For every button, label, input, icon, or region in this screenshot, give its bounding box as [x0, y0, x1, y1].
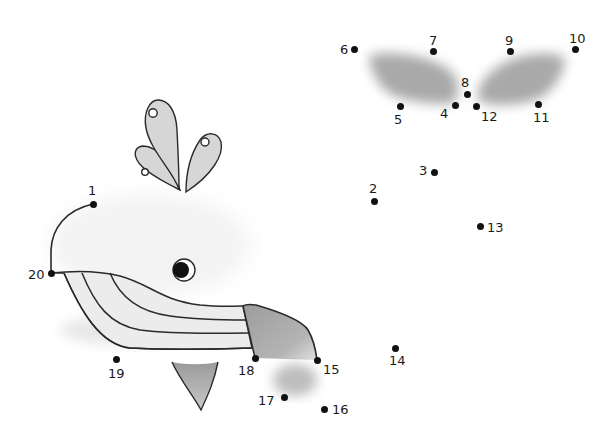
- dot-label-8: 8: [461, 76, 469, 89]
- dot-5[interactable]: [397, 103, 404, 110]
- dot-18[interactable]: [252, 355, 259, 362]
- dot-label-4: 4: [440, 107, 448, 120]
- dot-11[interactable]: [535, 101, 542, 108]
- dot-12[interactable]: [473, 103, 480, 110]
- dot-14[interactable]: [392, 345, 399, 352]
- dot-label-11: 11: [533, 111, 550, 124]
- dot-label-19: 19: [108, 367, 125, 380]
- dot-19[interactable]: [113, 356, 120, 363]
- dot-label-7: 7: [429, 34, 437, 47]
- dot-20[interactable]: [48, 270, 55, 277]
- water-spout: [135, 100, 221, 192]
- dot-label-9: 9: [505, 34, 513, 47]
- dot-9[interactable]: [507, 48, 514, 55]
- dot-label-2: 2: [369, 182, 377, 195]
- whale-drawing: [0, 0, 611, 433]
- dot-label-13: 13: [487, 221, 504, 234]
- dot-label-5: 5: [394, 113, 402, 126]
- dot-label-1: 1: [88, 184, 96, 197]
- dot-10[interactable]: [572, 46, 579, 53]
- dot-label-3: 3: [419, 164, 427, 177]
- dot-2[interactable]: [371, 198, 378, 205]
- dot-label-15: 15: [323, 363, 340, 376]
- dot-label-17: 17: [258, 394, 275, 407]
- dot-label-18: 18: [238, 364, 255, 377]
- dot-16[interactable]: [321, 406, 328, 413]
- dot-1[interactable]: [90, 201, 97, 208]
- dot-7[interactable]: [430, 48, 437, 55]
- dot-15[interactable]: [314, 357, 321, 364]
- dot-17[interactable]: [281, 394, 288, 401]
- dot-4[interactable]: [452, 102, 459, 109]
- dot-label-16: 16: [332, 403, 349, 416]
- eye: [173, 259, 195, 281]
- dot-label-20: 20: [28, 268, 45, 281]
- dot-label-14: 14: [389, 354, 406, 367]
- dot-label-10: 10: [569, 32, 586, 45]
- dot-label-6: 6: [340, 43, 348, 56]
- dot-13[interactable]: [477, 223, 484, 230]
- dot-8[interactable]: [464, 91, 471, 98]
- dot-3[interactable]: [431, 169, 438, 176]
- dot-6[interactable]: [351, 46, 358, 53]
- dot-label-12: 12: [481, 110, 498, 123]
